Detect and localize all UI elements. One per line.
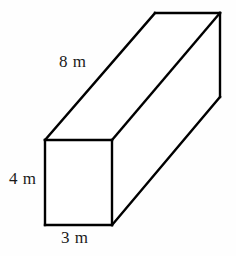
length-dimension-label: 8 m [59,53,86,70]
rectangular-prism-drawing [0,0,236,256]
figure-canvas: 8 m 4 m 3 m [0,0,236,256]
height-dimension-label: 4 m [9,170,36,187]
front-face [45,140,112,225]
width-dimension-label: 3 m [61,229,88,246]
